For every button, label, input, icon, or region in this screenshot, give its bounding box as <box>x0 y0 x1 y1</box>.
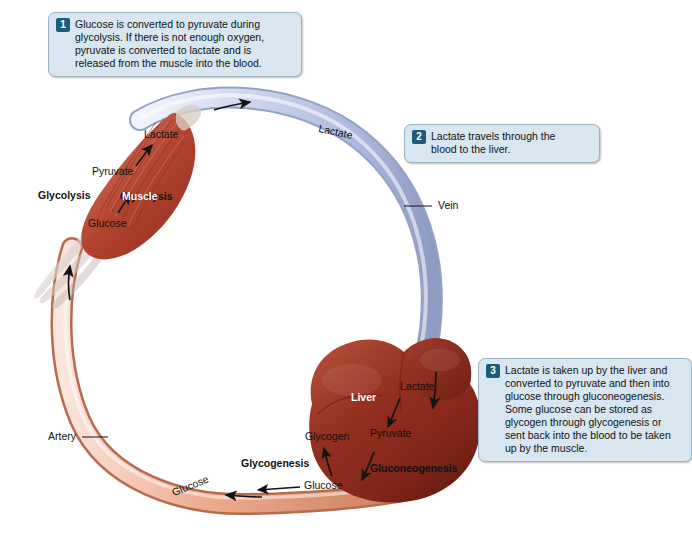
label-liver-lactate: Lactate <box>400 380 434 392</box>
label-liver: Liver <box>351 391 376 403</box>
label-liver-glucose: Glucose <box>304 479 343 491</box>
callout-1-number: 1 <box>56 18 70 32</box>
label-liver-pyruvate: Pyruvate <box>370 427 411 439</box>
label-glycolysis-text: Glycolysis <box>38 189 91 201</box>
callout-1-text: Glucose is converted to pyruvate during … <box>75 18 285 70</box>
label-muscle: Muscle <box>122 190 158 202</box>
label-artery: Artery <box>48 430 76 442</box>
callout-2-text: Lactate travels through the blood to the… <box>431 130 581 156</box>
label-vein: Vein <box>438 199 458 211</box>
callout-2-number: 2 <box>412 130 426 144</box>
callout-2: 2Lactate travels through the blood to th… <box>404 124 600 163</box>
label-glycogenesis: Glycogenesis <box>241 457 309 469</box>
label-muscle-pyruvate: Pyruvate <box>92 165 133 177</box>
callout-3: 3Lactate is taken up by the liver and co… <box>478 358 692 462</box>
label-muscle-glucose: Glucose <box>88 217 127 229</box>
label-liver-glycogen: Glycogen <box>305 430 349 442</box>
callout-1: 1Glucose is converted to pyruvate during… <box>48 12 302 77</box>
label-muscle-lactate: Lactate <box>144 128 178 140</box>
liver-illustration <box>309 338 481 502</box>
label-gluconeogenesis: Gluconeogenesis <box>370 462 458 474</box>
callout-3-number: 3 <box>486 364 500 378</box>
callout-3-text: Lactate is taken up by the liver and con… <box>505 364 673 455</box>
arrow-glucose-out <box>258 487 300 490</box>
